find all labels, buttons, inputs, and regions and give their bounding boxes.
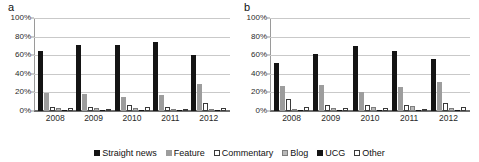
legend-item-other: Other	[354, 148, 385, 158]
bar-ucg-2008	[62, 110, 67, 112]
legend-label: Other	[362, 148, 385, 158]
bar-other-2011	[183, 109, 188, 111]
x-tick-label-2010: 2010	[113, 113, 151, 123]
bar-blog-2009	[94, 108, 99, 111]
bar-straight-news-2008	[274, 63, 279, 111]
bar-straight-news-2008	[38, 51, 43, 111]
y-tick-label-60: 60%	[251, 51, 267, 59]
legend-swatch-icon-commentary	[214, 150, 220, 156]
bar-ucg-2011	[177, 110, 182, 112]
x-tick-label-2010: 2010	[350, 113, 389, 123]
legend-swatch-icon-ucg	[317, 150, 323, 156]
gridline-0	[270, 111, 470, 112]
legend-swatch-icon-feature	[166, 150, 172, 156]
y-tick-label-0: 0%	[19, 107, 31, 115]
y-tick-label-100: 100%	[11, 14, 31, 22]
plot-area-a: 0%20%40%60%80%100%	[34, 18, 230, 111]
bar-blog-2011	[410, 106, 415, 111]
y-tick-label-20: 20%	[251, 88, 267, 96]
bar-clusters-b	[270, 18, 470, 111]
legend-label: Feature	[174, 148, 205, 158]
bar-straight-news-2012	[191, 55, 196, 111]
x-tick-label-2008: 2008	[36, 113, 74, 123]
plot-area-b: 0%20%40%60%80%100%	[270, 18, 470, 111]
bar-cluster-2009	[311, 18, 350, 111]
y-tick-label-40: 40%	[15, 70, 31, 78]
bar-cluster-2011	[390, 18, 429, 111]
chart-panel-b: b 0%20%40%60%80%100% 2008200920102011201…	[240, 0, 479, 136]
y-tick-label-40: 40%	[251, 70, 267, 78]
bar-blog-2011	[171, 109, 176, 111]
bar-commentary-2011	[165, 107, 170, 111]
bar-feature-2009	[82, 94, 87, 111]
x-tick-label-2009: 2009	[311, 113, 350, 123]
bar-blog-2008	[292, 109, 297, 111]
bar-ucg-2010	[377, 110, 382, 112]
bar-commentary-2012	[203, 103, 208, 111]
x-tick-label-2012: 2012	[429, 113, 468, 123]
bar-feature-2012	[437, 82, 442, 111]
panel-a-label: a	[8, 1, 14, 13]
x-axis-a: 20082009201020112012	[34, 113, 230, 123]
bar-commentary-2009	[88, 107, 93, 111]
legend-item-straight-news: Straight news	[94, 148, 157, 158]
bar-blog-2010	[133, 108, 138, 111]
bar-cluster-2009	[74, 18, 112, 111]
bar-other-2009	[343, 108, 348, 111]
legend-item-ucg: UCG	[317, 148, 345, 158]
legend-item-commentary: Commentary	[214, 148, 274, 158]
bar-cluster-2008	[272, 18, 311, 111]
bar-ucg-2009	[337, 110, 342, 112]
bar-feature-2008	[280, 86, 285, 111]
legend-swatch-icon-straight-news	[94, 150, 100, 156]
bar-feature-2011	[398, 87, 403, 111]
bar-commentary-2011	[404, 105, 409, 111]
chart-legend: Straight newsFeatureCommentaryBlogUCGOth…	[0, 148, 479, 158]
bar-commentary-2010	[127, 105, 132, 111]
bar-cluster-2011	[151, 18, 189, 111]
legend-label: Straight news	[102, 148, 157, 158]
x-tick-label-2009: 2009	[74, 113, 112, 123]
bar-cluster-2010	[350, 18, 389, 111]
y-tick-label-80: 80%	[251, 33, 267, 41]
bar-commentary-2010	[365, 105, 370, 111]
x-tick-label-2011: 2011	[390, 113, 429, 123]
bar-cluster-2012	[429, 18, 468, 111]
bar-blog-2009	[331, 108, 336, 111]
legend-item-blog: Blog	[282, 148, 308, 158]
bar-other-2012	[221, 108, 226, 111]
figure-root: a 0%20%40%60%80%100% 2008200920102011201…	[0, 0, 479, 162]
y-tick-label-100: 100%	[247, 14, 267, 22]
legend-swatch-icon-other	[354, 150, 360, 156]
bar-cluster-2012	[190, 18, 228, 111]
bar-feature-2008	[44, 93, 49, 111]
bar-straight-news-2009	[76, 45, 81, 111]
bar-other-2010	[145, 107, 150, 111]
bar-straight-news-2012	[431, 59, 436, 111]
legend-label: Blog	[290, 148, 308, 158]
x-tick-label-2008: 2008	[272, 113, 311, 123]
x-axis-b: 20082009201020112012	[270, 113, 470, 123]
bar-commentary-2009	[325, 105, 330, 111]
y-tick-label-60: 60%	[15, 51, 31, 59]
bar-blog-2012	[449, 108, 454, 111]
bar-blog-2008	[56, 108, 61, 111]
bar-other-2012	[461, 107, 466, 111]
bar-straight-news-2010	[115, 45, 120, 111]
bar-straight-news-2011	[392, 51, 397, 111]
bar-commentary-2008	[286, 99, 291, 111]
bar-straight-news-2010	[353, 46, 358, 111]
bar-feature-2012	[197, 84, 202, 111]
legend-label: Commentary	[222, 148, 274, 158]
bar-ucg-2011	[416, 110, 421, 112]
gridline-0	[34, 111, 230, 112]
bar-ucg-2012	[215, 110, 220, 112]
y-tick-label-0: 0%	[255, 107, 267, 115]
legend-item-feature: Feature	[166, 148, 205, 158]
bar-blog-2012	[209, 109, 214, 111]
bar-other-2008	[68, 108, 73, 111]
bar-other-2011	[422, 109, 427, 111]
bar-feature-2010	[121, 97, 126, 111]
bar-cluster-2008	[36, 18, 74, 111]
panel-b-label: b	[244, 1, 250, 13]
